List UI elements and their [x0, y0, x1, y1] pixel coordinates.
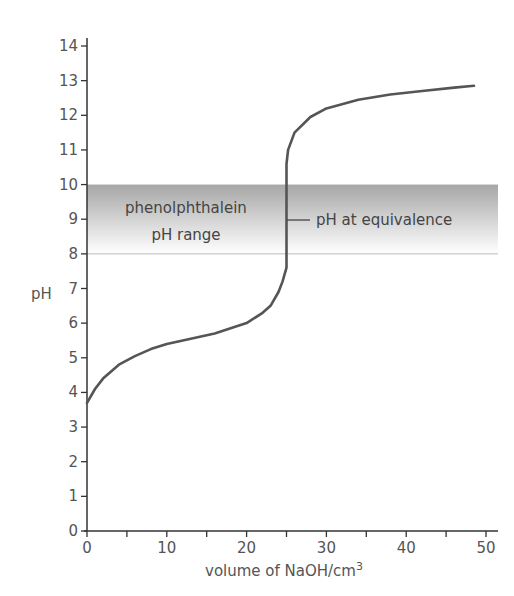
- band-label-line1: phenolphthalein: [125, 199, 247, 217]
- y-tick-label: 4: [68, 383, 78, 401]
- band-label-line2: pH range: [151, 226, 220, 244]
- y-tick-label: 11: [59, 141, 78, 159]
- y-tick-label: 1: [68, 487, 78, 505]
- x-tick-label: 40: [397, 539, 416, 557]
- y-tick-label: 9: [68, 210, 78, 228]
- x-tick-label: 20: [237, 539, 256, 557]
- y-tick-label: 5: [68, 349, 78, 367]
- x-axis-label: volume of NaOH/cm3: [205, 560, 363, 580]
- y-tick-label: 12: [59, 106, 78, 124]
- y-tick-label: 13: [59, 72, 78, 90]
- x-tick-label: 0: [82, 539, 92, 557]
- y-tick-label: 0: [68, 522, 78, 540]
- y-tick-label: 14: [59, 37, 78, 55]
- y-tick-label: 3: [68, 418, 78, 436]
- x-tick-label: 30: [317, 539, 336, 557]
- y-tick-label: 8: [68, 245, 78, 263]
- x-tick-label: 10: [157, 539, 176, 557]
- equivalence-label: pH at equivalence: [316, 211, 452, 229]
- y-tick-label: 7: [68, 280, 78, 298]
- y-tick-label: 6: [68, 314, 78, 332]
- y-tick-label: 2: [68, 453, 78, 471]
- axes: 0123456789101112131401020304050: [59, 37, 498, 557]
- titration-chart: 0123456789101112131401020304050 phenolph…: [0, 0, 514, 596]
- y-axis-label: pH: [31, 285, 52, 303]
- x-tick-label: 50: [476, 539, 495, 557]
- y-tick-label: 10: [59, 176, 78, 194]
